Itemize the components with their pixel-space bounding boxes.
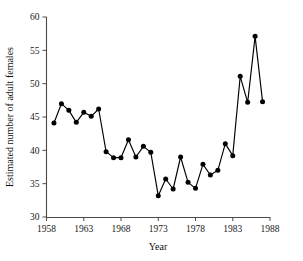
data-point [141,144,146,149]
data-point [178,155,183,160]
x-tick-label: 1983 [223,224,242,234]
y-axis-title: Estimated number of adult females [4,47,15,187]
data-point [208,173,213,178]
data-point [253,34,258,39]
data-point [89,114,94,119]
data-point [245,100,250,105]
data-point [230,153,235,158]
data-point [66,108,71,113]
chart-figure: 30354045505560 1958196319681973197819831… [0,0,303,261]
data-point [260,99,265,104]
data-point [163,177,168,182]
data-point [171,187,176,192]
data-point [96,107,101,112]
data-point [51,121,56,126]
y-tick-label: 55 [30,46,40,56]
data-point [223,141,228,146]
data-point [81,110,86,115]
x-axis-title: Year [149,241,168,252]
chart-background [0,0,303,261]
data-point [186,180,191,185]
data-point [148,150,153,155]
x-tick-label: 1978 [186,224,205,234]
data-point [133,155,138,160]
data-point [193,186,198,191]
x-tick-label: 1968 [112,224,131,234]
x-tick-label: 1988 [261,224,280,234]
data-point [126,137,131,142]
y-tick-label: 45 [30,112,40,122]
x-tick-label: 1963 [74,224,93,234]
data-point [156,193,161,198]
x-tick-label: 1973 [149,224,168,234]
data-point [238,74,243,79]
data-point [59,101,64,106]
x-tick-label: 1958 [37,224,56,234]
line-chart-svg: 30354045505560 1958196319681973197819831… [0,0,303,261]
data-point [200,162,205,167]
y-tick-label: 40 [30,146,40,156]
y-tick-label: 50 [30,79,40,89]
data-point [104,149,109,154]
data-point [215,168,220,173]
data-point [74,120,79,125]
y-tick-label: 60 [30,12,40,22]
data-point [119,155,124,160]
y-tick-label: 35 [30,179,40,189]
y-tick-label: 30 [30,212,40,222]
data-point [111,155,116,160]
